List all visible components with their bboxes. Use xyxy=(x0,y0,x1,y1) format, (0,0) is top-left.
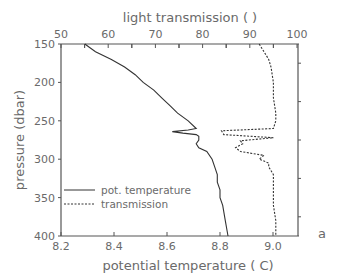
bottom-tick-label: 8.8 xyxy=(211,240,229,253)
y-tick-label: 350 xyxy=(34,192,55,205)
plot-frame xyxy=(61,44,299,236)
y-tick-label: 200 xyxy=(34,76,55,89)
transmission-line xyxy=(222,44,276,236)
top-tick-label: 80 xyxy=(196,28,210,41)
legend: pot. temperature transmission xyxy=(64,184,191,210)
y-axis-title: pressure (dbar) xyxy=(12,90,27,190)
bottom-tick-label: 9.0 xyxy=(264,240,282,253)
bottom-axis-title: potential temperature ( C) xyxy=(102,258,273,273)
y-tick-label: 250 xyxy=(34,115,55,128)
top-tick-label: 90 xyxy=(243,28,257,41)
axis-ticks xyxy=(58,44,301,236)
chart-svg: 50607080901008.28.48.68.89.0150200250300… xyxy=(0,0,338,276)
y-tick-label: 300 xyxy=(34,153,55,166)
panel-label: a xyxy=(318,226,326,241)
top-tick-label: 50 xyxy=(54,28,68,41)
legend-label-temperature: pot. temperature xyxy=(101,184,191,196)
top-axis-title: light transmission ( ) xyxy=(123,10,257,25)
legend-label-transmission: transmission xyxy=(101,198,168,210)
bottom-tick-label: 8.6 xyxy=(158,240,176,253)
top-tick-label: 100 xyxy=(287,28,308,41)
top-tick-label: 70 xyxy=(148,28,162,41)
y-tick-label: 150 xyxy=(34,38,55,51)
y-tick-label: 400 xyxy=(34,230,55,243)
top-tick-label: 60 xyxy=(101,28,115,41)
tick-labels: 50607080901008.28.48.68.89.0150200250300… xyxy=(34,28,308,253)
bottom-tick-label: 8.4 xyxy=(105,240,123,253)
